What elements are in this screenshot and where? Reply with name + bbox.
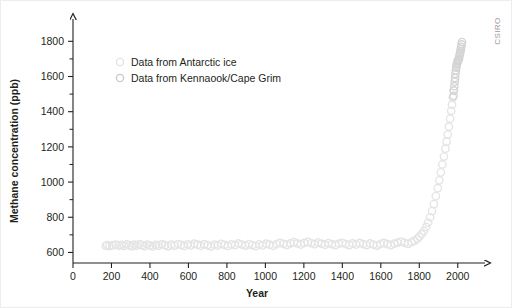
methane-concentration-figure: 6008001000120014001600180002004006008001… <box>0 0 512 308</box>
x-tick-label: 200 <box>103 270 121 282</box>
x-tick-label: 0 <box>70 270 76 282</box>
x-tick-label: 400 <box>141 270 159 282</box>
data-point <box>437 169 444 176</box>
data-point <box>436 177 443 184</box>
y-tick-label: 1800 <box>41 35 65 47</box>
y-tick-label: 600 <box>46 246 64 258</box>
y-tick-label: 1200 <box>41 141 65 153</box>
series-antarctic-ice <box>102 87 457 250</box>
data-point <box>440 153 447 160</box>
x-tick-label: 1200 <box>292 270 316 282</box>
data-point <box>434 185 441 192</box>
x-tick-label: 2000 <box>446 270 470 282</box>
x-tick-label: 1000 <box>254 270 278 282</box>
y-tick-label: 1400 <box>41 105 65 117</box>
data-point <box>446 115 453 122</box>
data-point <box>442 145 449 152</box>
data-point <box>439 161 446 168</box>
data-point <box>443 138 450 145</box>
data-point <box>432 192 439 199</box>
data-point <box>445 123 452 130</box>
data-point <box>444 131 451 138</box>
x-tick-label: 1800 <box>408 270 432 282</box>
x-tick-label: 1400 <box>331 270 355 282</box>
chart-canvas: 6008001000120014001600180002004006008001… <box>1 1 512 308</box>
y-tick-label: 800 <box>46 211 64 223</box>
x-tick-label: 600 <box>180 270 198 282</box>
y-tick-label: 1000 <box>41 176 65 188</box>
x-tick-label: 800 <box>218 270 236 282</box>
series-cape-grim <box>450 38 466 99</box>
y-tick-label: 1600 <box>41 70 65 82</box>
x-tick-label: 1600 <box>369 270 393 282</box>
data-point <box>430 200 437 207</box>
chart-series <box>102 38 466 250</box>
